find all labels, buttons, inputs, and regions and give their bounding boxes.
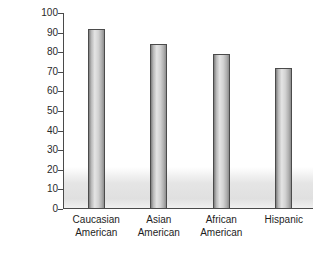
y-axis-tick-mark	[58, 170, 63, 171]
y-axis-tick-mark	[58, 209, 63, 210]
x-axis-category-label-line: American	[128, 226, 191, 239]
bar-chart: PERCENTAGE 1009080706050403020100 Caucas…	[0, 0, 320, 260]
bar	[275, 68, 292, 209]
y-axis-tick-label: 60	[30, 86, 58, 96]
y-axis-tick-label: 0	[30, 204, 58, 214]
y-axis-tick-labels: 1009080706050403020100	[30, 8, 58, 212]
x-axis-category-labels: CaucasianAmericanAsianAmericanAfricanAme…	[63, 213, 313, 257]
x-axis-category-label: Hispanic	[253, 213, 316, 226]
x-axis-category-label: AfricanAmerican	[190, 213, 253, 239]
y-axis-tick-mark	[58, 189, 63, 190]
y-axis-tick-mark	[58, 91, 63, 92]
x-axis-category-label-line: Asian	[128, 213, 191, 226]
y-axis-tick-label: 70	[30, 67, 58, 77]
x-axis-category-label: CaucasianAmerican	[65, 213, 128, 239]
y-axis-tick-mark	[58, 72, 63, 73]
y-axis-line	[63, 13, 64, 209]
y-axis-tick-mark	[58, 150, 63, 151]
y-axis-tick-label: 30	[30, 145, 58, 155]
x-axis-category-label-line: American	[190, 226, 253, 239]
y-axis-tick-mark	[58, 33, 63, 34]
y-axis-tick-label: 100	[30, 8, 58, 18]
x-axis-category-label: AsianAmerican	[128, 213, 191, 239]
y-axis-tick-label: 80	[30, 47, 58, 57]
x-axis-category-label-line: Caucasian	[65, 213, 128, 226]
y-axis-tick-mark	[58, 52, 63, 53]
y-axis-tick-label: 10	[30, 184, 58, 194]
y-axis-tick-label: 40	[30, 126, 58, 136]
x-axis-category-label-line: African	[190, 213, 253, 226]
plot-area	[63, 13, 313, 209]
bar	[150, 44, 167, 209]
y-axis-tick-mark	[58, 111, 63, 112]
bar	[88, 29, 105, 209]
y-axis-tick-label: 90	[30, 28, 58, 38]
y-axis-tick-label: 50	[30, 106, 58, 116]
y-axis-tick-mark	[58, 131, 63, 132]
bar	[213, 54, 230, 209]
y-axis-tick-label: 20	[30, 165, 58, 175]
x-axis-category-label-line: Hispanic	[253, 213, 316, 226]
x-axis-category-label-line: American	[65, 226, 128, 239]
y-axis-tick-mark	[58, 13, 63, 14]
